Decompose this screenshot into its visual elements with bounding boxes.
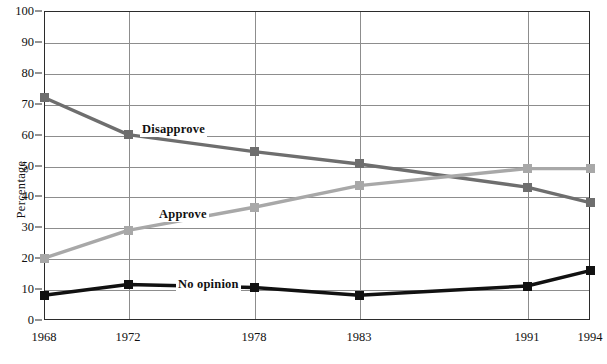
y-tick-label: 40 [22, 189, 35, 204]
series-layer [44, 11, 590, 320]
y-tick-mark [35, 196, 42, 197]
data-point-marker [250, 147, 259, 156]
data-point-marker [355, 291, 364, 300]
data-point-marker [40, 254, 49, 263]
y-tick-mark [35, 134, 42, 135]
x-tick-label: 1972 [116, 330, 141, 345]
y-tick-label: 20 [22, 251, 35, 266]
data-point-marker [250, 203, 259, 212]
y-tick-mark [35, 11, 42, 12]
y-tick-mark [35, 227, 42, 228]
series-line [44, 98, 590, 203]
data-point-marker [40, 291, 49, 300]
y-tick-label: 10 [22, 282, 35, 297]
data-point-marker [523, 183, 532, 192]
y-tick-mark [35, 103, 42, 104]
data-point-marker [124, 130, 133, 139]
y-tick-mark [35, 320, 42, 321]
y-tick-label: 80 [22, 65, 35, 80]
series-inline-label: Disapprove [140, 122, 207, 137]
series-line [44, 169, 590, 259]
x-tick-label: 1968 [32, 330, 57, 345]
y-tick-label: 0 [28, 313, 34, 328]
y-axis-tick-labels: 0102030405060708090100 [0, 0, 44, 364]
data-point-marker [523, 164, 532, 173]
data-point-marker [250, 283, 259, 292]
y-tick-mark [35, 289, 42, 290]
data-point-marker [40, 93, 49, 102]
data-point-marker [586, 198, 595, 207]
x-tick-label: 1994 [578, 330, 603, 345]
x-tick-label: 1978 [242, 330, 267, 345]
y-tick-mark [35, 41, 42, 42]
y-tick-label: 60 [22, 127, 35, 142]
data-point-marker [124, 280, 133, 289]
data-point-marker [586, 266, 595, 275]
data-point-marker [355, 181, 364, 190]
y-tick-label: 100 [15, 4, 34, 19]
line-chart: Percentage 0102030405060708090100 Disapp… [0, 0, 607, 364]
y-tick-label: 70 [22, 96, 35, 111]
y-tick-label: 90 [22, 34, 35, 49]
data-point-marker [355, 159, 364, 168]
data-point-marker [586, 164, 595, 173]
y-tick-mark [35, 72, 42, 73]
data-point-marker [124, 226, 133, 235]
series-inline-label: No opinion [176, 277, 241, 292]
y-tick-label: 50 [22, 158, 35, 173]
series-inline-label: Approve [157, 207, 209, 222]
y-tick-mark [35, 165, 42, 166]
data-point-marker [523, 282, 532, 291]
x-tick-label: 1983 [347, 330, 372, 345]
x-tick-label: 1991 [515, 330, 540, 345]
y-tick-label: 30 [22, 220, 35, 235]
